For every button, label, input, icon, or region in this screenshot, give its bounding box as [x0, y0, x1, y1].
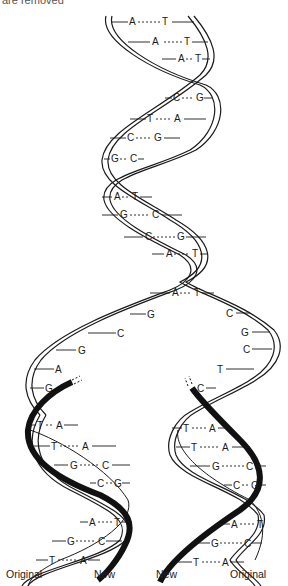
svg-text:C: C: [246, 461, 253, 472]
svg-text:C: C: [197, 383, 204, 394]
svg-text:G: G: [67, 536, 75, 547]
svg-text:T: T: [195, 53, 201, 64]
label-left-original: Original: [6, 568, 42, 580]
svg-text:T: T: [257, 519, 263, 530]
svg-text:T: T: [217, 364, 223, 375]
svg-text:C: C: [233, 480, 240, 491]
svg-text:A: A: [166, 248, 173, 259]
svg-text:T: T: [49, 555, 55, 566]
svg-text:G: G: [196, 92, 204, 103]
svg-text:A: A: [231, 519, 238, 530]
svg-text:T: T: [114, 517, 120, 528]
svg-text:A: A: [178, 53, 185, 64]
svg-text:A: A: [82, 441, 89, 452]
svg-text:T: T: [194, 287, 200, 298]
svg-text:G: G: [251, 480, 259, 491]
svg-text:T: T: [183, 423, 189, 434]
svg-text:G: G: [78, 345, 86, 356]
svg-text:A: A: [222, 557, 229, 568]
svg-text:C: C: [243, 344, 250, 355]
svg-text:C: C: [127, 132, 134, 143]
svg-text:C: C: [152, 209, 159, 220]
svg-text:C: C: [173, 92, 180, 103]
svg-text:A: A: [56, 420, 63, 431]
label-right-new: New: [156, 568, 177, 580]
svg-text:C: C: [145, 231, 152, 242]
svg-text:C: C: [244, 538, 251, 549]
parent-strand-b: [102, 16, 280, 412]
svg-text:T: T: [51, 441, 57, 452]
svg-text:C: C: [98, 536, 105, 547]
svg-text:T: T: [132, 191, 138, 202]
svg-text:C: C: [97, 478, 104, 489]
svg-text:A: A: [222, 442, 229, 453]
svg-text:T: T: [191, 442, 197, 453]
svg-text:T: T: [162, 16, 168, 27]
svg-text:C: C: [117, 328, 124, 339]
svg-text:G: G: [120, 209, 128, 220]
svg-text:A: A: [55, 364, 62, 375]
svg-text:C: C: [226, 308, 233, 319]
svg-text:G: G: [45, 383, 53, 394]
label-right-original: Original: [230, 568, 266, 580]
svg-text:T: T: [184, 36, 190, 47]
svg-text:G: G: [154, 132, 162, 143]
svg-text:C: C: [102, 460, 109, 471]
svg-text:A: A: [89, 517, 96, 528]
svg-text:A: A: [80, 555, 87, 566]
fork-left-base-letters: G C G A G: [45, 309, 155, 394]
svg-text:G: G: [114, 478, 122, 489]
dna-helix-diagram: AT AT AT CG TA CG GC AT GC CG AT AT G C …: [0, 0, 288, 586]
fork-base-stubs: [30, 313, 272, 388]
svg-text:A: A: [114, 191, 121, 202]
svg-text:G: G: [70, 460, 78, 471]
left-daughter-letters: TA TA GC CG AT GC TA: [37, 420, 122, 566]
label-left-new: New: [94, 568, 115, 580]
svg-text:G: G: [147, 309, 155, 320]
svg-text:A: A: [172, 287, 179, 298]
svg-text:G: G: [177, 231, 185, 242]
svg-text:T: T: [147, 113, 153, 124]
svg-text:T: T: [37, 420, 43, 431]
svg-text:A: A: [129, 16, 136, 27]
svg-text:G: G: [211, 538, 219, 549]
fork-right-base-letters: C G C T C: [197, 308, 250, 394]
svg-text:G: G: [241, 327, 249, 338]
svg-text:A: A: [152, 36, 159, 47]
svg-text:A: A: [174, 113, 181, 124]
svg-text:C: C: [130, 153, 137, 164]
parent-base-letters: AT AT AT CG TA CG GC AT GC CG AT AT: [111, 16, 204, 298]
svg-text:T: T: [192, 248, 198, 259]
svg-text:A: A: [209, 423, 216, 434]
svg-text:T: T: [193, 557, 199, 568]
svg-text:G: G: [111, 153, 119, 164]
svg-text:G: G: [212, 461, 220, 472]
